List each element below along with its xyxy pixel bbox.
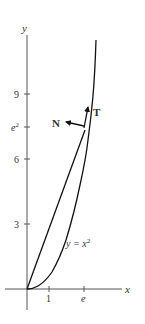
- normal-vector: [66, 122, 84, 126]
- tangent-vector: [84, 107, 88, 128]
- parabola-curve: [27, 40, 96, 289]
- curve-equation-label: y = x2: [65, 237, 91, 249]
- axes: y x 1 e 9 e2 6 3: [5, 22, 130, 310]
- y-tick-label-3: 3: [14, 219, 19, 230]
- y-tick-label-e2: e2: [11, 121, 19, 133]
- x-axis-label: x: [124, 283, 130, 295]
- normal-label: N: [52, 117, 60, 129]
- y-tick-label-6: 6: [14, 154, 19, 165]
- y-axis-label: y: [21, 22, 27, 34]
- tangent-label: T: [93, 106, 101, 118]
- x-tick-label-e: e: [81, 293, 86, 304]
- x-tick-label-1: 1: [46, 293, 51, 304]
- tangent-normal-diagram: y x 1 e 9 e2 6 3 T N y = x2: [0, 0, 145, 324]
- y-tick-label-9: 9: [14, 89, 19, 100]
